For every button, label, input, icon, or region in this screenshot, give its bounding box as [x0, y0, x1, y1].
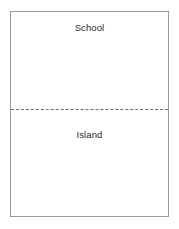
region-school: School	[11, 12, 168, 109]
region-label-island: Island	[11, 129, 168, 140]
diagram-frame: School Island	[10, 11, 169, 217]
diagram-canvas: School Island	[0, 0, 179, 229]
region-island: Island	[11, 110, 168, 216]
region-label-school: School	[11, 22, 168, 33]
